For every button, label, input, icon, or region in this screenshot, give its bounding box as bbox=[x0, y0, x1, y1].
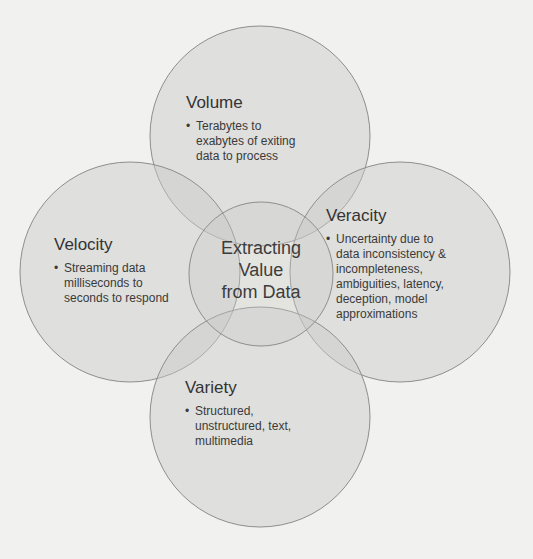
volume-bullet: Terabytes to exabytes of exiting data to… bbox=[186, 119, 356, 164]
veracity-bullets: Uncertainty due to data inconsistency & … bbox=[326, 232, 501, 322]
center-line-1: Extracting bbox=[201, 237, 321, 259]
veracity-label: Veracity Uncertainty due to data inconsi… bbox=[326, 206, 501, 322]
center-label: Extracting Value from Data bbox=[201, 237, 321, 303]
center-line-2: Value bbox=[201, 259, 321, 281]
veracity-title: Veracity bbox=[326, 206, 501, 226]
velocity-bullets: Streaming data milliseconds to seconds t… bbox=[54, 261, 204, 306]
variety-bullets: Structured, unstructured, text, multimed… bbox=[185, 404, 350, 449]
volume-label: Volume Terabytes to exabytes of exiting … bbox=[186, 93, 356, 164]
velocity-bullet: Streaming data milliseconds to seconds t… bbox=[54, 261, 204, 306]
center-line-3: from Data bbox=[201, 281, 321, 303]
variety-bullet: Structured, unstructured, text, multimed… bbox=[185, 404, 350, 449]
volume-title: Volume bbox=[186, 93, 356, 113]
big-data-venn-diagram: Volume Terabytes to exabytes of exiting … bbox=[0, 0, 533, 559]
variety-title: Variety bbox=[185, 378, 350, 398]
veracity-bullet: Uncertainty due to data inconsistency & … bbox=[326, 232, 501, 322]
velocity-title: Velocity bbox=[54, 235, 204, 255]
volume-bullets: Terabytes to exabytes of exiting data to… bbox=[186, 119, 356, 164]
velocity-label: Velocity Streaming data milliseconds to … bbox=[54, 235, 204, 306]
variety-label: Variety Structured, unstructured, text, … bbox=[185, 378, 350, 449]
